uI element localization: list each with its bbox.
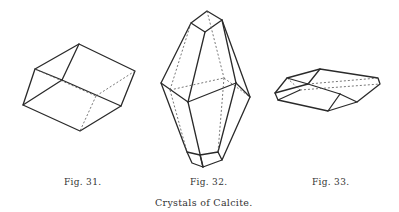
figure-plate: Fig. 31. Fig. 32. Fig. 33. Crystals of C… bbox=[0, 0, 399, 212]
fig-33-caption: Fig. 33. bbox=[312, 177, 349, 187]
fig-32-caption: Fig. 32. bbox=[190, 177, 227, 187]
fig-31-caption: Fig. 31. bbox=[64, 177, 101, 187]
fig-31-crystal bbox=[23, 44, 135, 131]
fig-32-crystal bbox=[161, 11, 250, 167]
fig-33-crystal bbox=[275, 69, 380, 111]
plate-title: Crystals of Calcite. bbox=[155, 197, 253, 208]
